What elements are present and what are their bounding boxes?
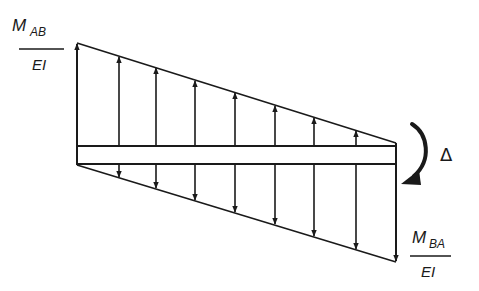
rotation-arrow-icon [401,124,426,185]
downward-arrows [119,164,356,249]
left-moment-numerator: M [12,16,27,35]
upward-arrows [119,57,356,146]
right-moment-denominator: EI [421,263,435,280]
left-moment-label: M AB EI [12,16,64,73]
right-moment-numerator: M [412,228,427,247]
right-moment-subscript: BA [429,237,445,251]
moment-diagram: M AB EI Δ M BA EI [0,0,479,291]
left-moment-subscript: AB [29,25,46,39]
bottom-moment-line [77,165,396,262]
beam [77,146,396,164]
right-moment-label: M BA EI [410,228,451,280]
top-moment-line [77,43,396,143]
left-moment-denominator: EI [32,56,46,73]
rotation-delta-label: Δ [440,144,453,165]
